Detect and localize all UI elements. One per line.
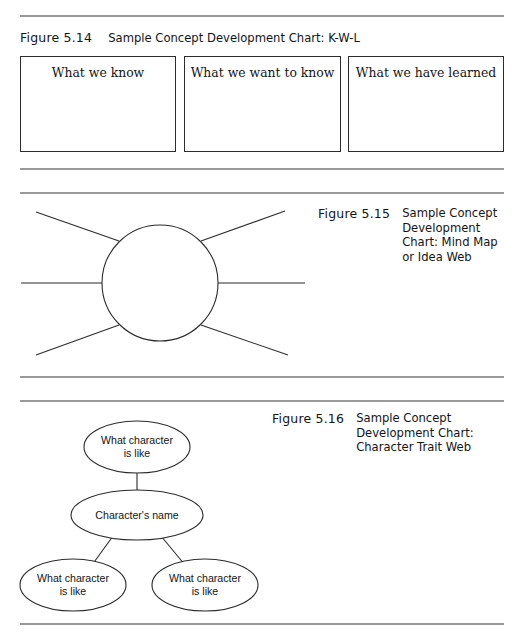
trait-web-node-top-line1: What character [101,434,173,446]
trait-web-node-bottom-left-line1: What character [37,572,109,584]
trait-web-node-bottom-right-line2: is like [192,585,219,597]
trait-web-node-top-line2: is like [124,447,151,459]
trait-web-edge-center-to-bottom-right [161,536,185,565]
trait-web-edge-center-to-bottom-left [92,536,113,565]
trait-web-node-character-name-label: Character's name [95,509,178,521]
character-trait-web-diagram: What character is like Character's name … [0,0,516,637]
document-page: Figure 5.14 Sample Concept Development C… [0,0,516,637]
trait-web-node-bottom-left-line2: is like [60,585,87,597]
trait-web-node-bottom-right-line1: What character [169,572,241,584]
